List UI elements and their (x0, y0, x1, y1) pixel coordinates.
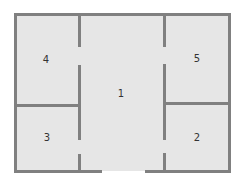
wall-left-inner-bottom (78, 154, 81, 172)
room-label-3: 3 (44, 132, 50, 143)
wall-bottom-right (145, 170, 231, 173)
wall-right-inner-bottom (163, 153, 166, 172)
room-label-5: 5 (194, 53, 200, 64)
room-label-2: 2 (194, 132, 200, 143)
wall-bottom-left (14, 170, 102, 173)
wall-divider-right (164, 102, 230, 105)
floor-plan: 1 2 3 4 5 (0, 0, 243, 183)
wall-left-inner-top (78, 13, 81, 47)
room-label-4: 4 (43, 54, 49, 65)
wall-right-inner-top (163, 13, 166, 47)
room-label-1: 1 (118, 88, 124, 99)
wall-left-inner-mid (78, 65, 81, 140)
wall-top (14, 13, 231, 16)
wall-right (228, 13, 231, 173)
wall-left (14, 13, 17, 173)
wall-divider-left (14, 104, 80, 107)
